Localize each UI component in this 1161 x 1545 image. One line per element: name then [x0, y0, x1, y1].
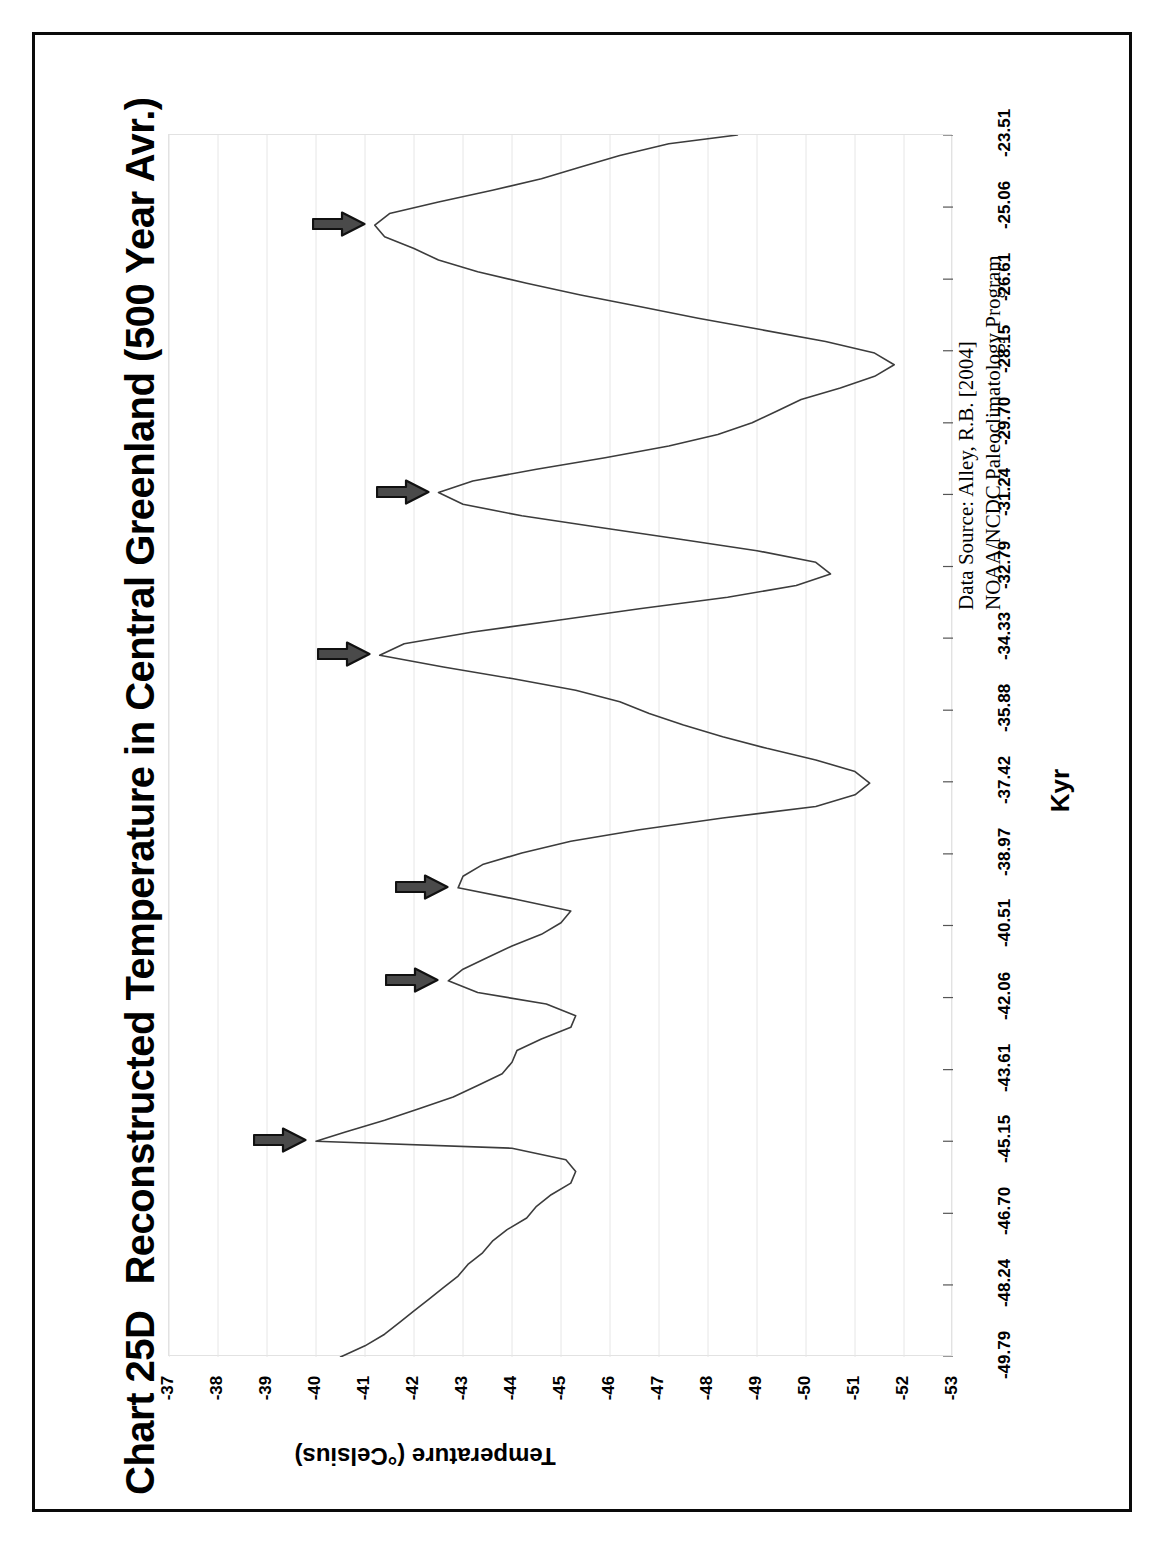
- annotation-arrow: [385, 967, 439, 993]
- x-axis-tick-label: -48.24: [995, 1248, 1015, 1318]
- data-source-line-1: Data Source: Alley, R.B. [2004]: [953, 300, 980, 610]
- y-axis-tick-label: -44: [501, 1361, 521, 1415]
- y-axis-tick-label: -52: [893, 1361, 913, 1415]
- x-axis-tick-label: -34.33: [995, 601, 1015, 671]
- y-axis-tick-label: -47: [648, 1361, 668, 1415]
- annotation-arrow: [376, 479, 430, 505]
- page-title: Reconstructed Temperature in Central Gre…: [118, 97, 163, 1284]
- y-axis-tick-label: -49: [746, 1361, 766, 1415]
- x-axis-tick-label: -40.51: [995, 888, 1015, 958]
- annotation-arrow: [317, 641, 371, 667]
- y-axis-tick-label: -46: [599, 1361, 619, 1415]
- x-axis-tick-label: -43.61: [995, 1033, 1015, 1103]
- data-source-line-2: NOAA/NCDC Paleoclimatology Program: [980, 300, 1007, 610]
- y-axis-tick-label: -50: [795, 1361, 815, 1415]
- annotation-arrow: [395, 874, 449, 900]
- x-axis-tick-label: -46.70: [995, 1176, 1015, 1246]
- x-axis-tick-label: -23.51: [995, 98, 1015, 168]
- data-series-line: [316, 135, 894, 1357]
- y-axis-tick-label: -38: [207, 1361, 227, 1415]
- y-axis-tick-label: -41: [354, 1361, 374, 1415]
- y-axis-tick-label: -40: [305, 1361, 325, 1415]
- plot-area: [168, 134, 952, 1356]
- x-axis-tick-label: -35.88: [995, 673, 1015, 743]
- y-axis-tick-label: -51: [844, 1361, 864, 1415]
- y-axis-tick-label: -37: [158, 1361, 178, 1415]
- y-axis-tick-label: -53: [942, 1361, 962, 1415]
- x-axis-tick-label: -37.42: [995, 745, 1015, 815]
- x-axis-title: Kyr: [1045, 761, 1076, 821]
- y-axis-title: Temperature (°Celsius): [175, 1436, 675, 1470]
- y-axis-tick-label: -42: [403, 1361, 423, 1415]
- annotation-arrow: [312, 211, 366, 237]
- chart-id-label: Chart 25D: [118, 1311, 163, 1495]
- x-axis-tick-label: -38.97: [995, 817, 1015, 887]
- x-axis-tick-label: -25.06: [995, 170, 1015, 240]
- y-axis-tick-label: -39: [256, 1361, 276, 1415]
- chart-page: Chart 25D Reconstructed Temperature in C…: [0, 0, 1161, 1545]
- data-source-note: Data Source: Alley, R.B. [2004] NOAA/NCD…: [953, 300, 1011, 610]
- x-axis-tick-label: -42.06: [995, 961, 1015, 1031]
- y-axis-tick-label: -45: [550, 1361, 570, 1415]
- y-axis-tick-label: -43: [452, 1361, 472, 1415]
- chart-title-block: Chart 25D Reconstructed Temperature in C…: [105, 75, 175, 1495]
- x-axis-tick-label: -45.15: [995, 1104, 1015, 1174]
- x-axis-tick-label: -49.79: [995, 1320, 1015, 1390]
- plot-canvas: [169, 135, 953, 1357]
- annotation-arrow: [253, 1127, 307, 1153]
- y-axis-tick-label: -48: [697, 1361, 717, 1415]
